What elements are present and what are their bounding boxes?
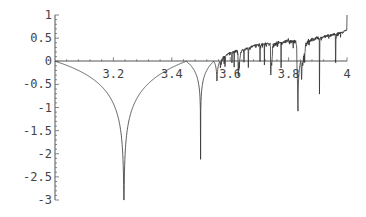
- lyapunov-curve: [55, 15, 347, 200]
- y-tick-label: -2: [38, 147, 52, 161]
- x-tick-label: 3.2: [103, 67, 125, 81]
- y-tick-label: 0.5: [30, 31, 52, 45]
- y-tick-label: -1: [38, 101, 52, 115]
- y-tick-label: -0.5: [23, 77, 52, 91]
- y-tick-label: 1: [45, 8, 52, 22]
- x-tick-label: 4: [343, 67, 350, 81]
- x-tick-label: 3.8: [278, 67, 300, 81]
- y-tick-label: -3: [38, 193, 52, 207]
- lyapunov-chart: 3.23.43.63.8410.50-0.5-1-1.5-2-2.5-3: [0, 0, 366, 217]
- y-tick-label: -1.5: [23, 124, 52, 138]
- y-tick-label: -2.5: [23, 170, 52, 184]
- tick-labels: 3.23.43.63.8410.50-0.5-1-1.5-2-2.5-3: [23, 8, 351, 207]
- x-tick-label: 3.4: [161, 67, 183, 81]
- y-tick-label: 0: [45, 54, 52, 68]
